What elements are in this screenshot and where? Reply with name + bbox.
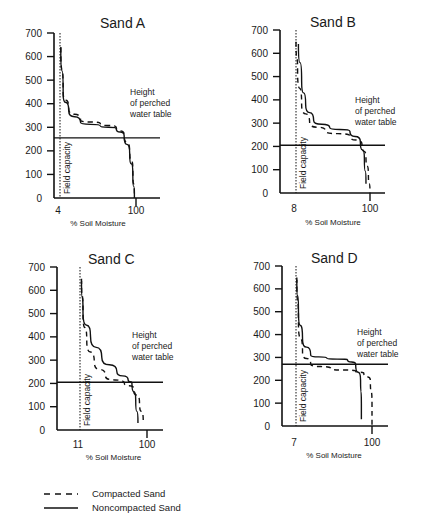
y-tick-label: 300 <box>253 352 270 363</box>
y-tick-label: 200 <box>253 375 270 386</box>
y-tick-label: 100 <box>25 169 42 180</box>
y-tick-label: 700 <box>28 262 45 273</box>
y-tick-label: 300 <box>251 118 268 129</box>
y-tick-label: 600 <box>25 51 42 62</box>
x-axis-label: % Soil Moisture <box>70 219 126 228</box>
y-tick-label: 400 <box>25 98 42 109</box>
perched-water-table-label: Height <box>355 95 380 105</box>
panel-title: Sand D <box>311 250 358 266</box>
x-tick-label: 7 <box>291 437 297 448</box>
y-tick-label: 600 <box>251 48 268 59</box>
perched-water-table-label: water table <box>129 109 172 119</box>
x-tick-label: 100 <box>362 203 379 214</box>
y-tick-label: 700 <box>251 25 268 36</box>
y-tick-label: 0 <box>36 193 42 204</box>
y-tick-label: 0 <box>262 188 268 199</box>
panel-title: Sand C <box>88 251 135 267</box>
perched-water-table-label: of perched <box>132 341 172 351</box>
chart-panel-c: Sand C010020030040050060070011100% Soil … <box>28 251 174 462</box>
y-tick-label: 200 <box>28 378 45 389</box>
y-tick-label: 500 <box>253 306 270 317</box>
x-tick-label: 100 <box>364 437 381 448</box>
x-axis-label: % Soil Moisture <box>306 451 362 460</box>
perched-water-table-label: Height <box>130 87 155 97</box>
y-tick-label: 500 <box>251 71 268 82</box>
legend-label-noncompacted: Noncompacted Sand <box>92 502 181 513</box>
y-tick-label: 500 <box>28 308 45 319</box>
perched-water-table-label: of perched <box>355 106 395 116</box>
y-tick-label: 0 <box>39 425 45 436</box>
y-tick-label: 100 <box>28 401 45 412</box>
y-tick-label: 600 <box>253 283 270 294</box>
perched-water-table-label: water table <box>131 352 174 362</box>
x-tick-label: 8 <box>291 203 297 214</box>
y-tick-label: 700 <box>25 28 42 39</box>
x-tick-label: 100 <box>139 439 156 450</box>
perched-water-table-label: of perched <box>130 98 170 108</box>
chart-legend: Compacted Sand Noncompacted Sand <box>44 488 181 513</box>
y-tick-label: 0 <box>264 421 270 432</box>
chart-panel-b: Sand B01002003004005006007008100% Soil M… <box>251 14 397 227</box>
panel-title: Sand A <box>100 15 146 31</box>
y-tick-label: 600 <box>28 285 45 296</box>
y-tick-label: 400 <box>253 329 270 340</box>
field-capacity-label: Field capacity <box>82 373 92 426</box>
field-capacity-label: Field capacity <box>298 369 308 422</box>
chart-panel-d: Sand D01002003004005006007007100% Soil M… <box>253 250 399 460</box>
perched-water-table-label: water table <box>354 117 397 127</box>
x-tick-label: 100 <box>128 205 145 216</box>
y-tick-label: 300 <box>25 122 42 133</box>
y-tick-label: 200 <box>25 145 42 156</box>
y-tick-label: 700 <box>253 261 270 272</box>
field-capacity-label: Field capacity <box>62 141 72 194</box>
chart-panels: Sand A01002003004005006007004100% Soil M… <box>25 14 399 462</box>
y-tick-label: 400 <box>251 94 268 105</box>
y-tick-label: 500 <box>25 75 42 86</box>
y-tick-label: 400 <box>28 331 45 342</box>
y-tick-label: 100 <box>251 164 268 175</box>
x-axis-label: % Soil Moisture <box>305 218 361 227</box>
perched-water-table-label: Height <box>132 330 157 340</box>
chart-figure: Sand A01002003004005006007004100% Soil M… <box>0 0 421 526</box>
legend-label-compacted: Compacted Sand <box>92 488 165 499</box>
y-tick-label: 300 <box>28 355 45 366</box>
panel-title: Sand B <box>310 14 356 30</box>
x-tick-label: 4 <box>55 205 61 216</box>
perched-water-table-label: of perched <box>357 338 397 348</box>
y-tick-label: 200 <box>251 141 268 152</box>
x-axis-label: % Soil Moisture <box>86 453 142 462</box>
chart-panel-a: Sand A01002003004005006007004100% Soil M… <box>25 15 172 228</box>
x-tick-label: 11 <box>73 439 84 450</box>
perched-water-table-label: Height <box>357 327 382 337</box>
perched-water-table-label: water table <box>356 349 399 359</box>
field-capacity-label: Field capacity <box>298 136 308 189</box>
y-tick-label: 100 <box>253 398 270 409</box>
